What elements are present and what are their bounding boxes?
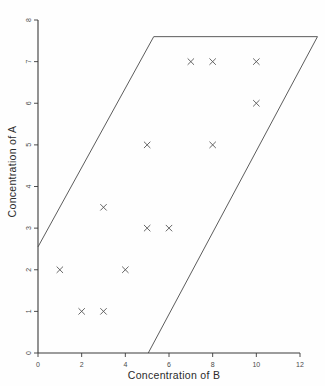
y-tick-label: 0 <box>25 351 32 355</box>
y-tick-label: 3 <box>25 226 32 230</box>
data-point <box>78 308 84 314</box>
y-tick-label: 7 <box>25 60 32 64</box>
x-axis-title: Concentration of B <box>128 369 220 381</box>
y-tick-label: 4 <box>25 184 32 188</box>
feasible-region-parallelogram <box>38 37 317 353</box>
y-tick-label: 1 <box>25 309 32 313</box>
data-point <box>100 204 106 210</box>
data-point <box>253 100 259 106</box>
data-point <box>188 58 194 64</box>
data-point <box>144 142 150 148</box>
y-axis-tick-labels: 012345678 <box>25 18 32 355</box>
data-point <box>144 225 150 231</box>
data-point <box>209 58 215 64</box>
y-axis-title: Concentration of A <box>6 126 18 218</box>
data-point <box>100 308 106 314</box>
feasible-region-outline <box>38 37 317 353</box>
axes-group <box>38 20 300 353</box>
plot-canvas: 024681012 012345678 Concentration of B C… <box>0 0 325 386</box>
x-tick-label: 8 <box>211 361 215 368</box>
x-axis-tick-labels: 024681012 <box>36 361 304 368</box>
data-points-group <box>57 58 260 314</box>
x-tick-label: 4 <box>123 361 127 368</box>
data-point <box>57 267 63 273</box>
y-tick-label: 2 <box>25 268 32 272</box>
x-axis-ticks <box>38 353 300 357</box>
data-point <box>166 225 172 231</box>
x-tick-label: 10 <box>252 361 260 368</box>
y-tick-label: 6 <box>25 101 32 105</box>
y-axis-ticks <box>34 20 38 353</box>
x-tick-label: 12 <box>296 361 304 368</box>
data-point <box>209 142 215 148</box>
x-tick-label: 2 <box>80 361 84 368</box>
x-tick-label: 0 <box>36 361 40 368</box>
x-tick-label: 6 <box>167 361 171 368</box>
y-tick-label: 5 <box>25 143 32 147</box>
y-tick-label: 8 <box>25 18 32 22</box>
scatter-chart: 024681012 012345678 Concentration of B C… <box>0 0 325 386</box>
data-point <box>253 58 259 64</box>
data-point <box>122 267 128 273</box>
